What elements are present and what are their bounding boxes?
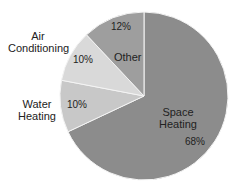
label-space-heating: Space Heating: [153, 106, 203, 130]
label-other: Other: [114, 51, 142, 63]
value-water-heating: 10%: [67, 99, 87, 110]
label-line: Air: [8, 30, 68, 42]
value-space-heating: 68%: [185, 136, 205, 147]
value-air-conditioning: 10%: [73, 54, 93, 65]
label-line: Water: [13, 98, 61, 110]
label-line: Space: [153, 106, 203, 118]
label-line: Heating: [153, 118, 203, 130]
label-line: Heating: [13, 110, 61, 122]
label-water-heating: Water Heating: [13, 98, 61, 122]
label-line: Conditioning: [8, 42, 68, 54]
value-other: 12%: [111, 21, 131, 32]
label-air-conditioning: Air Conditioning: [8, 30, 68, 54]
